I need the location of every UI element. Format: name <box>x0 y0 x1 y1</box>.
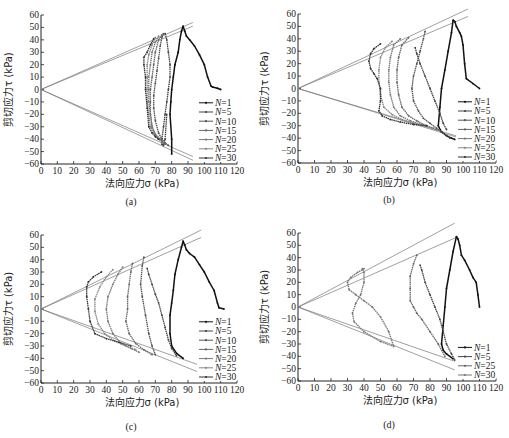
data-point <box>107 320 109 322</box>
data-point <box>465 78 467 80</box>
data-point <box>380 88 382 90</box>
y-tick-label: −50 <box>281 364 296 374</box>
data-point <box>112 333 114 335</box>
legend-marker <box>205 321 207 323</box>
x-tick-label: 0 <box>296 165 301 175</box>
data-point <box>132 262 134 264</box>
data-point <box>168 89 170 91</box>
x-tick-label: 0 <box>39 166 44 176</box>
y-tick-label: 30 <box>30 267 40 277</box>
stress-path-n-25 <box>95 270 136 350</box>
x-tick-label: 20 <box>326 165 336 175</box>
data-point <box>151 44 153 46</box>
y-tick-label: 30 <box>287 46 297 56</box>
data-point <box>154 136 156 138</box>
data-point <box>164 33 166 35</box>
data-point <box>189 253 191 255</box>
data-point <box>398 57 400 59</box>
data-point <box>151 51 153 53</box>
data-point <box>127 296 129 298</box>
data-point <box>143 349 145 351</box>
stress-path-n-20 <box>389 39 434 128</box>
stress-path-n-15 <box>397 38 437 130</box>
x-tick-label: 90 <box>442 165 452 175</box>
data-point <box>105 338 107 340</box>
data-point <box>150 89 152 91</box>
data-point <box>217 87 219 89</box>
y-tick-label: 40 <box>287 253 297 263</box>
data-point <box>363 281 365 283</box>
data-point <box>409 300 411 302</box>
data-point <box>449 137 451 139</box>
data-point <box>154 82 156 84</box>
x-tick-label: 80 <box>167 385 177 395</box>
x-tick-label: 40 <box>359 165 369 175</box>
data-point <box>373 73 375 75</box>
data-point <box>107 296 109 298</box>
legend-marker <box>205 367 207 369</box>
data-point <box>171 348 173 350</box>
data-point <box>429 331 431 333</box>
y-tick-label: −30 <box>24 341 39 351</box>
data-point <box>148 274 150 276</box>
y-tick-label: 10 <box>287 71 297 81</box>
data-point <box>454 139 456 141</box>
y-tick-label: 50 <box>30 22 40 32</box>
data-point <box>125 345 127 347</box>
data-point <box>154 120 156 122</box>
data-point <box>166 101 168 103</box>
data-point <box>151 126 153 128</box>
data-point <box>424 30 426 32</box>
failure-envelope-line <box>41 237 201 309</box>
x-tick-label: 10 <box>53 166 63 176</box>
data-point <box>203 64 205 66</box>
data-point <box>388 69 390 71</box>
data-point <box>143 56 145 58</box>
y-tick-label: 10 <box>287 290 297 300</box>
data-point <box>135 343 137 345</box>
data-point <box>166 113 168 115</box>
data-point <box>416 254 418 256</box>
x-tick-label: 30 <box>85 385 95 395</box>
x-tick-label: 70 <box>409 165 419 175</box>
x-tick-label: 60 <box>134 385 144 395</box>
data-point <box>141 265 143 267</box>
data-point <box>130 345 132 347</box>
data-point <box>164 143 166 145</box>
y-tick-label: −60 <box>281 158 296 168</box>
y-tick-label: −60 <box>24 378 39 388</box>
data-point <box>434 100 436 102</box>
data-point <box>164 327 166 329</box>
failure-envelope-line <box>41 309 201 373</box>
data-point <box>140 283 142 285</box>
data-point <box>464 63 466 65</box>
x-tick-label: 20 <box>326 383 336 393</box>
x-tick-label: 100 <box>197 166 212 176</box>
data-point <box>479 88 481 90</box>
data-point <box>161 314 163 316</box>
data-point <box>117 274 119 276</box>
data-point <box>92 276 94 278</box>
data-point <box>462 44 464 46</box>
data-point <box>479 306 481 308</box>
data-point <box>171 138 173 140</box>
data-point <box>378 110 380 112</box>
data-point <box>153 95 155 97</box>
x-tick-label: 80 <box>167 166 177 176</box>
x-tick-label: 50 <box>376 383 386 393</box>
data-point <box>127 308 129 310</box>
panel-label: (b) <box>383 194 395 206</box>
x-tick-label: 110 <box>214 385 228 395</box>
legend-marker <box>464 156 466 158</box>
x-tick-label: 60 <box>392 383 402 393</box>
data-point <box>146 267 148 269</box>
data-point <box>391 40 393 42</box>
y-tick-label: −40 <box>24 134 39 144</box>
y-tick-label: 0 <box>291 302 296 312</box>
data-point <box>145 314 147 316</box>
x-tick-label: 90 <box>183 385 193 395</box>
data-point <box>437 343 439 345</box>
data-point <box>442 132 444 134</box>
data-point <box>146 107 148 109</box>
x-tick-label: 110 <box>473 383 487 393</box>
